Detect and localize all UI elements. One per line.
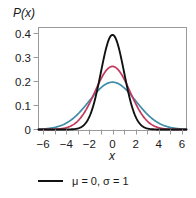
x-tick-label: −6 (37, 138, 50, 150)
y-axis-tick-labels: 0.4 0.3 0.2 0.1 0 (15, 28, 32, 136)
y-tick-label: 0.1 (15, 100, 31, 112)
x-axis-title: x (108, 149, 116, 163)
y-axis-title: P(x) (13, 6, 35, 20)
x-tick-label: 4 (156, 138, 163, 150)
curve-sigma-2 (39, 82, 187, 129)
chart-canvas: P(x) 0.4 0.3 0.2 0.1 0 −6−4−20246 (0, 0, 196, 198)
legend: μ = 0, σ = 1 (38, 175, 129, 187)
normal-distribution-chart: P(x) 0.4 0.3 0.2 0.1 0 −6−4−20246 (0, 0, 196, 198)
y-tick-label: 0.2 (15, 76, 31, 88)
x-tick-label: 0 (109, 138, 115, 150)
y-axis-ticks (34, 34, 39, 130)
y-tick-label: 0.3 (15, 52, 31, 64)
plot-frame (39, 28, 187, 131)
y-tick-label: 0 (25, 124, 31, 136)
x-tick-label: 2 (132, 138, 138, 150)
x-axis-tick-labels: −6−4−20246 (37, 138, 186, 150)
legend-label: μ = 0, σ = 1 (72, 175, 129, 187)
x-tick-label: −4 (60, 138, 74, 150)
y-tick-label: 0.4 (15, 28, 32, 40)
x-tick-label: −2 (83, 138, 96, 150)
data-curves (39, 35, 187, 130)
x-tick-label: 6 (179, 138, 185, 150)
curve-sigma-1-5 (39, 66, 187, 129)
